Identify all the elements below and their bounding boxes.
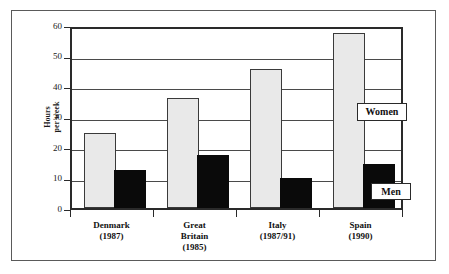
bar-denmark-men[interactable]: [114, 170, 146, 208]
y-tick-label-60: 60: [36, 22, 62, 31]
y-tick-label-40: 40: [36, 83, 62, 92]
x-category-name2-great-britain: Britain: [153, 231, 236, 242]
x-category-year-great-britain: (1985): [153, 242, 236, 253]
bar-group-italy: [250, 29, 323, 208]
x-category-year-italy: (1987/91): [236, 231, 319, 242]
y-tick-mark-60: [64, 27, 70, 28]
bar-italy-men[interactable]: [280, 178, 312, 208]
y-tick-mark-30: [64, 119, 70, 120]
x-tick-mark-1: [153, 210, 154, 217]
x-category-label-denmark: Denmark (1987): [70, 220, 153, 242]
x-category-name-italy: Italy: [269, 220, 287, 230]
y-tick-mark-50: [64, 58, 70, 59]
y-tick-label-50: 50: [36, 52, 62, 61]
x-category-label-spain: Spain (1990): [319, 220, 402, 242]
y-tick-label-30: 30: [36, 113, 62, 122]
x-tick-mark-0: [70, 210, 71, 217]
x-tick-mark-3: [319, 210, 320, 217]
legend-label-men: Men: [371, 183, 411, 200]
x-category-year-denmark: (1987): [70, 231, 153, 242]
x-tick-mark-4: [402, 210, 403, 217]
y-tick-mark-10: [64, 180, 70, 181]
bar-italy-women[interactable]: [250, 69, 282, 208]
scanned-page: Hours per week 60 50 40 30 20 10 0: [0, 0, 449, 274]
y-tick-mark-40: [64, 88, 70, 89]
y-tick-label-10: 10: [36, 174, 62, 183]
bar-group-great-britain: [167, 29, 240, 208]
bar-group-denmark: [84, 29, 157, 208]
x-category-label-italy: Italy (1987/91): [236, 220, 319, 242]
x-category-label-great-britain: Great Britain (1985): [153, 220, 236, 253]
x-tick-mark-2: [236, 210, 237, 217]
x-category-name-spain: Spain: [349, 220, 371, 230]
x-category-year-spain: (1990): [319, 231, 402, 242]
grouped-bar-chart: Hours per week 60 50 40 30 20 10 0: [0, 0, 449, 274]
y-tick-mark-20: [64, 149, 70, 150]
y-tick-label-20: 20: [36, 144, 62, 153]
bar-denmark-women[interactable]: [84, 133, 116, 208]
plot-area: [70, 27, 403, 210]
x-category-name-great-britain: Great: [183, 220, 205, 230]
x-category-name-denmark: Denmark: [93, 220, 130, 230]
legend-label-women: Women: [357, 103, 407, 121]
y-tick-label-0: 0: [36, 205, 62, 214]
bar-great-britain-women[interactable]: [167, 98, 199, 208]
bar-great-britain-men[interactable]: [197, 155, 229, 208]
